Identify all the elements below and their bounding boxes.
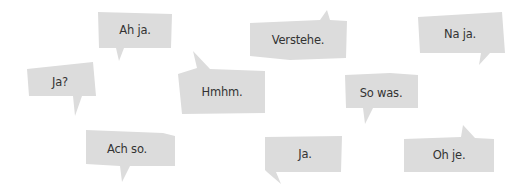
bubble-text-ja-period: Ja. (298, 147, 312, 161)
bubble-text-hmhm: Hmhm. (202, 85, 243, 99)
bubble-text-ja-question: Ja? (52, 75, 68, 89)
speech-bubble-canvas: Ah ja. Ja? Hmhm. Verstehe. Na ja. So was… (0, 0, 530, 188)
speech-bubble-ach-so (86, 130, 175, 182)
bubble-text-verstehe: Verstehe. (272, 33, 325, 47)
bubble-text-so-was: So was. (360, 86, 403, 100)
speech-bubble-hmhm (178, 51, 265, 114)
bubble-text-ach-so: Ach so. (107, 142, 147, 156)
bubble-text-na-ja: Na ja. (444, 27, 476, 41)
speech-bubble-ja-question (27, 62, 96, 116)
bubble-text-oh-je: Oh je. (433, 148, 466, 162)
bubble-text-ah-ja: Ah ja. (119, 23, 151, 37)
